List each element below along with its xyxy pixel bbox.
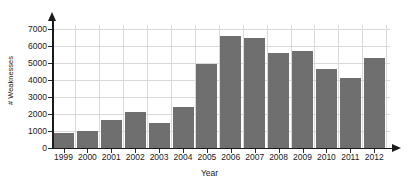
x-axis-tick (231, 149, 232, 153)
bar (244, 38, 265, 149)
y-axis-tick (48, 114, 52, 115)
y-axis-tick (48, 97, 52, 98)
y-axis-tick (48, 80, 52, 81)
y-axis-line (52, 20, 54, 149)
bar (77, 131, 98, 148)
bar (220, 36, 241, 148)
x-axis-tick (326, 149, 327, 153)
bar-chart: 01000200030004000500060007000 1999200020… (0, 0, 419, 184)
x-axis-title: Year (0, 168, 419, 178)
y-tick-label: 7000 (3, 25, 47, 34)
y-tick-label: 0 (3, 144, 47, 153)
gridline-horizontal (53, 29, 390, 30)
plot-area (53, 25, 390, 148)
x-tick-label: 2012 (357, 153, 391, 162)
y-axis-arrow-icon (48, 12, 56, 21)
x-axis-line (52, 148, 393, 150)
bar (292, 51, 313, 148)
y-tick-label: 1000 (3, 127, 47, 136)
x-axis-tick (303, 149, 304, 153)
x-axis-tick (255, 149, 256, 153)
x-axis-tick (87, 149, 88, 153)
gridline-vertical (386, 25, 387, 148)
y-axis-tick (48, 46, 52, 47)
bar (173, 107, 194, 148)
y-axis-tick (48, 148, 52, 149)
y-axis-tick (48, 131, 52, 132)
bar (101, 120, 122, 148)
x-axis-tick (135, 149, 136, 153)
bar (340, 78, 361, 148)
x-axis-tick (159, 149, 160, 153)
bar (149, 123, 170, 149)
gridline-vertical (75, 25, 76, 148)
x-axis-arrow-icon (392, 144, 401, 152)
y-axis-tick (48, 29, 52, 30)
x-axis-tick (374, 149, 375, 153)
bar (53, 133, 74, 148)
bar (316, 69, 337, 148)
x-axis-tick (111, 149, 112, 153)
x-axis-tick (279, 149, 280, 153)
y-axis-tick (48, 63, 52, 64)
x-axis-tick (64, 149, 65, 153)
x-axis-tick (207, 149, 208, 153)
y-axis-title: # Weaknesses (6, 43, 15, 119)
x-axis-tick (183, 149, 184, 153)
bar (364, 58, 385, 148)
bar (196, 64, 217, 148)
bar (268, 53, 289, 148)
x-axis-tick (350, 149, 351, 153)
bar (125, 112, 146, 148)
